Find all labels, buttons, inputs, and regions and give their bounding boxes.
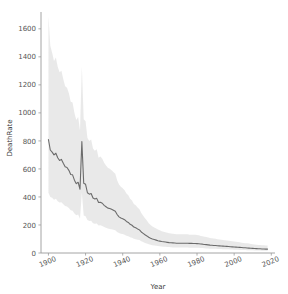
death-rate-line-chart: 02004006008001000120014001600 1900192019…: [0, 0, 288, 294]
y-tick-label: 1000: [18, 109, 36, 117]
y-tick-label: 200: [23, 222, 36, 230]
y-tick-label: 400: [23, 194, 36, 202]
chart-figure: 02004006008001000120014001600 1900192019…: [0, 0, 288, 294]
y-tick-label: 1600: [18, 25, 36, 33]
y-tick-label: 800: [23, 138, 36, 146]
y-tick-label: 1400: [18, 53, 36, 61]
y-tick-label: 0: [32, 250, 36, 258]
y-tick-label: 1200: [18, 81, 36, 89]
y-tick-label: 600: [23, 166, 36, 174]
y-axis-title: DeathRate: [6, 119, 14, 156]
x-axis-title: Year: [150, 283, 166, 291]
